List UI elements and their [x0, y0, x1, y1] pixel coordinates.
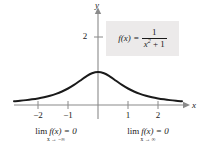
formula-callout: f(x) = 1 x2 + 1 [106, 21, 179, 56]
x-tick-label--2: −2 [30, 111, 46, 120]
x-axis-label: x [192, 101, 196, 110]
formula-equals: = [134, 34, 139, 43]
x-tick-label-2: 2 [150, 111, 166, 120]
left-limit-main: lim f(x) = 0 [12, 127, 100, 136]
left-limit-operator: lim [35, 126, 47, 136]
left-limit-annotation: lim f(x) = 0 x → −∞ [12, 127, 100, 143]
y-tick-label-2: 2 [80, 32, 90, 41]
right-limit-expression: f(x) = 0 [141, 126, 169, 136]
x-tick-label-1: 1 [120, 111, 136, 120]
formula-denominator: x2 + 1 [142, 39, 167, 49]
right-limit-annotation: lim f(x) = 0 x → ∞ [104, 127, 192, 143]
denominator-exponent: 2 [148, 38, 151, 44]
y-axis-label: y [95, 1, 99, 10]
formula-fraction: 1 x2 + 1 [142, 28, 167, 49]
x-axis-arrowhead [183, 102, 190, 108]
right-limit-operator: lim [127, 126, 139, 136]
denominator-rest: + 1 [153, 39, 165, 49]
right-limit-subscript: x → ∞ [104, 137, 192, 143]
left-limit-expression: f(x) = 0 [49, 126, 77, 136]
x-tick-label--1: −1 [60, 111, 76, 120]
formula-lhs: f(x) [118, 34, 131, 43]
formula-numerator: 1 [149, 28, 160, 38]
figure-container: x y −2 −1 1 2 2 f(x) = 1 x2 + 1 lim f(x)… [0, 0, 204, 150]
formula-expression: f(x) = 1 x2 + 1 [118, 28, 167, 49]
right-limit-main: lim f(x) = 0 [104, 127, 192, 136]
left-limit-subscript: x → −∞ [12, 137, 100, 143]
